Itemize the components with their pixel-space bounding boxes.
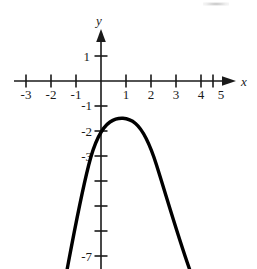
parabola-graph: -3 -2 -1 1 2 3 4 5 1 -1 -2 -3 -7 x y [0,0,257,269]
figure-canvas: -3 -2 -1 1 2 3 4 5 1 -1 -2 -3 -7 x y [0,0,257,269]
y-tick-label--7: -7 [81,249,92,264]
x-axis-label: x [240,74,247,89]
x-tick-label-5: 5 [218,87,225,102]
parabola-curve [67,118,189,269]
x-tick-label-4: 4 [198,87,205,102]
x-tick-label--3: -3 [21,87,32,102]
x-axis-arrow-icon [222,76,236,86]
x-tick-label-2: 2 [148,87,155,102]
x-tick-label-3: 3 [173,87,180,102]
y-tick-label-1: 1 [84,49,91,64]
x-tick-label--2: -2 [46,87,57,102]
y-tick-label--2: -2 [81,124,92,139]
x-tick-label--1: -1 [71,87,82,102]
y-axis-arrow-icon [96,29,106,42]
x-tick-label-1: 1 [123,87,130,102]
y-axis-label: y [94,13,102,28]
y-tick-label--1: -1 [81,98,92,113]
